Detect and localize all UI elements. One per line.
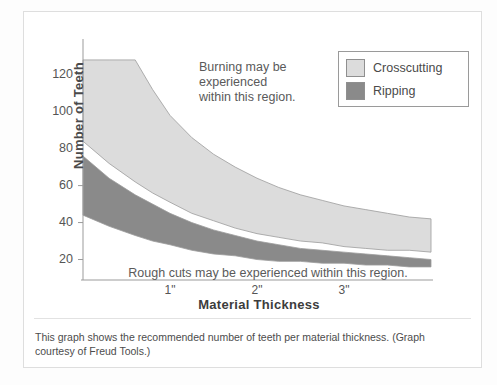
y-tick-label: 100 [39, 104, 73, 118]
legend-label: Ripping [373, 84, 415, 98]
legend-item-ripping: Ripping [346, 81, 415, 101]
x-tick-label: 3" [331, 283, 357, 297]
chart-plot-area: Number of Teeth 20406080100120 1"2"3" Ma… [24, 12, 481, 312]
burning-annotation-line: experienced [199, 75, 334, 90]
x-tick-label: 1" [157, 283, 183, 297]
y-tick-label: 60 [39, 178, 73, 192]
figure-caption: This graph shows the recommended number … [35, 330, 465, 358]
y-tick-label: 120 [39, 67, 73, 81]
chart-legend: CrosscuttingRipping [338, 51, 469, 107]
burning-annotation-line: within this region. [199, 90, 334, 105]
y-tick-label: 80 [39, 141, 73, 155]
burning-annotation: Burning may beexperiencedwithin this reg… [199, 60, 334, 105]
x-axis-title: Material Thickness [144, 297, 374, 312]
legend-item-crosscutting: Crosscutting [346, 58, 442, 78]
caption-divider [34, 318, 471, 319]
rough-cuts-annotation: Rough cuts may be experienced within thi… [108, 266, 428, 281]
y-tick-label: 20 [39, 252, 73, 266]
legend-swatch-icon [346, 82, 365, 100]
x-tick-label: 2" [244, 283, 270, 297]
figure-card: Number of Teeth 20406080100120 1"2"3" Ma… [23, 11, 482, 368]
page-background: Number of Teeth 20406080100120 1"2"3" Ma… [0, 0, 497, 385]
legend-swatch-icon [346, 59, 365, 77]
burning-annotation-line: Burning may be [199, 60, 334, 75]
legend-label: Crosscutting [373, 61, 442, 75]
y-tick-label: 40 [39, 215, 73, 229]
